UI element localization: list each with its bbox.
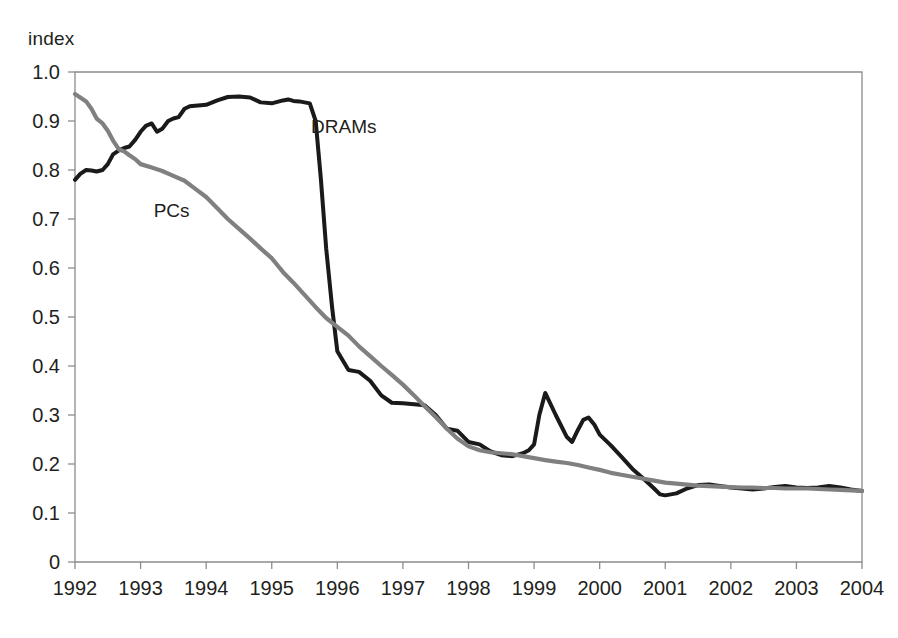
y-tick-label: 0.1 — [32, 502, 60, 524]
y-tick-label: 0.3 — [32, 404, 60, 426]
data-series-group — [75, 94, 862, 495]
y-tick-label: 0.4 — [32, 355, 60, 377]
series-label-drams: DRAMs — [311, 116, 376, 137]
y-tick-label: 0 — [49, 551, 60, 573]
x-tick-label: 1996 — [315, 577, 360, 599]
x-tick-label: 2000 — [577, 577, 622, 599]
x-tick-label: 1993 — [118, 577, 163, 599]
x-tick-label: 2004 — [840, 577, 885, 599]
x-tick-label: 1995 — [250, 577, 295, 599]
x-tick-label: 1997 — [381, 577, 426, 599]
x-tick-label: 2002 — [709, 577, 754, 599]
x-tick-label: 1998 — [446, 577, 491, 599]
x-tick-label: 2001 — [643, 577, 688, 599]
x-axis-ticks: 1992199319941995199619971998199920002001… — [53, 562, 885, 599]
y-tick-label: 0.7 — [32, 208, 60, 230]
x-tick-label: 2003 — [774, 577, 819, 599]
chart-page: index 00.10.20.30.40.50.60.70.80.91.0 19… — [0, 0, 898, 638]
x-tick-label: 1992 — [53, 577, 98, 599]
series-line-pcs — [75, 94, 862, 491]
y-tick-label: 0.5 — [32, 306, 60, 328]
line-chart: 00.10.20.30.40.50.60.70.80.91.0 19921993… — [0, 0, 898, 638]
y-tick-label: 0.6 — [32, 257, 60, 279]
x-tick-label: 1994 — [184, 577, 229, 599]
x-tick-label: 1999 — [512, 577, 557, 599]
y-tick-label: 0.8 — [32, 159, 60, 181]
series-annotations: DRAMsPCs — [154, 116, 377, 220]
y-axis-ticks: 00.10.20.30.40.50.60.70.80.91.0 — [32, 61, 75, 573]
y-tick-label: 0.2 — [32, 453, 60, 475]
y-tick-label: 0.9 — [32, 110, 60, 132]
y-tick-label: 1.0 — [32, 61, 60, 83]
series-line-drams — [75, 97, 862, 496]
series-label-pcs: PCs — [154, 200, 190, 221]
